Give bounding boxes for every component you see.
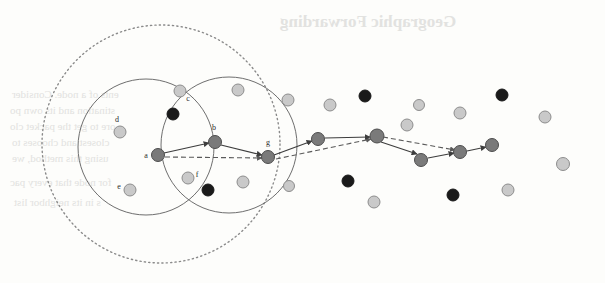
scatter-node <box>539 111 551 123</box>
path-node-p1 <box>312 133 325 146</box>
path-node-p5 <box>486 139 499 152</box>
node-label-b: b <box>212 123 216 132</box>
network-diagram: abcdefg <box>0 0 605 283</box>
node-f <box>182 172 194 184</box>
node-g <box>262 151 275 164</box>
solid-edge-p2-p3 <box>381 142 417 154</box>
node-label-f: f <box>196 170 199 179</box>
scatter-node <box>414 100 425 111</box>
node-label-d: d <box>115 115 119 124</box>
dashed-edge-p2-p4 <box>383 137 455 150</box>
scatter-node <box>557 158 570 171</box>
node-label-g: g <box>266 138 270 147</box>
solid-edge-p1-p2 <box>325 137 370 138</box>
scatter-node <box>447 189 459 201</box>
node-label-e: e <box>117 182 121 191</box>
node-label-c: c <box>186 94 190 103</box>
node-b <box>209 136 222 149</box>
scatter-node <box>324 99 336 111</box>
scatter-node <box>368 196 380 208</box>
labeled-nodes: abcdefg <box>114 85 275 196</box>
path-nodes <box>312 129 499 167</box>
path-node-p2 <box>370 129 384 143</box>
scatter-node <box>167 108 179 120</box>
scatter-node <box>342 175 354 187</box>
node-d <box>114 126 126 138</box>
scatter-node <box>284 181 295 192</box>
scatter-node <box>502 184 514 196</box>
scatter-node <box>401 119 413 131</box>
scatter-node <box>496 89 508 101</box>
solid-edge-a-b <box>164 143 209 153</box>
node-e <box>124 184 136 196</box>
dashed-edge-a-g <box>165 157 262 158</box>
node-c <box>174 85 186 97</box>
path-node-p3 <box>415 154 428 167</box>
scatter-node <box>359 90 371 102</box>
region-circles <box>42 25 297 263</box>
solid-edge-p4-p5 <box>467 147 486 151</box>
node-a <box>152 149 165 162</box>
node-label-a: a <box>144 151 148 160</box>
solid-edge-b-g <box>221 145 262 155</box>
scatter-node <box>454 107 466 119</box>
right-cluster-circle <box>161 77 297 213</box>
scatter-node <box>237 176 249 188</box>
solid-edge-p3-p4 <box>428 153 454 158</box>
scatter-node <box>232 84 244 96</box>
scatter-node <box>282 94 294 106</box>
path-node-p4 <box>454 146 467 159</box>
scatter-node <box>202 184 214 196</box>
